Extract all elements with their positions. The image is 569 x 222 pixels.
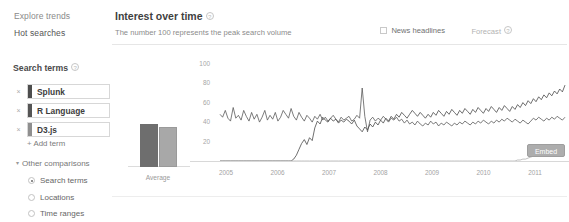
search-terms-heading: Search terms? [13, 63, 79, 73]
radio-option-locations[interactable]: Locations [28, 193, 74, 202]
x-axis-tick: 2008 [369, 169, 393, 176]
radio-label: Locations [40, 193, 74, 202]
plus-icon: + [27, 139, 32, 148]
page-subtitle: The number 100 represents the peak searc… [115, 28, 291, 37]
news-headlines-label: News headlines [391, 26, 445, 35]
search-term-row: × Splunk [14, 84, 110, 100]
y-axis-tick: 60 [194, 99, 210, 106]
search-term-input[interactable]: R Language [27, 103, 110, 118]
x-axis-tick: 2009 [420, 169, 444, 176]
trend-line [220, 88, 565, 132]
trend-plot: 10080604020 2005200620072008200920102011 [190, 48, 569, 183]
footer-divider [112, 196, 567, 197]
x-axis-tick: 2006 [266, 169, 290, 176]
help-icon[interactable]: ? [504, 26, 512, 34]
search-term-row: × D3.js [14, 122, 110, 138]
x-axis-tick: 2011 [523, 169, 547, 176]
series-color-swatch [28, 85, 32, 98]
remove-term-icon[interactable]: × [14, 106, 23, 115]
search-terms-label: Search terms [13, 63, 68, 73]
sidebar: Explore trends Hot searches Search terms… [0, 0, 112, 222]
x-axis-tick: 2005 [214, 169, 238, 176]
main-panel: Interest over time? The number 100 repre… [112, 0, 569, 222]
average-label: Average [126, 174, 190, 181]
radio-icon [28, 210, 35, 217]
trend-lines-svg [190, 48, 569, 183]
radio-icon [28, 177, 35, 184]
search-term-input[interactable]: Splunk [27, 84, 110, 99]
series-color-swatch [28, 104, 32, 117]
y-axis-tick: 100 [194, 60, 210, 67]
x-axis-tick: 2007 [317, 169, 341, 176]
embed-button[interactable]: Embed [527, 144, 565, 157]
page-title: Interest over time? [115, 10, 214, 22]
other-comparisons-toggle[interactable]: ▾Other comparisons [16, 159, 90, 168]
sidebar-item-hot-searches[interactable]: Hot searches [14, 28, 65, 38]
page-title-text: Interest over time [115, 10, 203, 22]
add-term-button[interactable]: +Add term [27, 139, 65, 148]
checkbox-icon [380, 27, 387, 34]
radio-label: Search terms [40, 176, 88, 185]
trend-line [220, 152, 565, 161]
x-axis-line [190, 161, 569, 162]
remove-term-icon[interactable]: × [14, 87, 23, 96]
add-term-label: Add term [34, 139, 66, 148]
trend-line [220, 85, 565, 161]
google-trends-page: Explore trends Hot searches Search terms… [0, 0, 569, 222]
sidebar-item-explore-trends[interactable]: Explore trends [14, 11, 70, 21]
radio-icon [28, 194, 35, 201]
y-axis-tick: 20 [194, 138, 210, 145]
help-icon[interactable]: ? [71, 63, 79, 71]
search-term-row: × R Language [14, 103, 110, 119]
remove-term-icon[interactable]: × [14, 125, 23, 134]
radio-option-search-terms[interactable]: Search terms [28, 176, 88, 185]
forecast-label: Forecast [471, 27, 501, 36]
average-bars-chart: Average [126, 48, 190, 183]
search-term-label: D3.js [37, 125, 57, 135]
search-term-label: R Language [37, 106, 85, 116]
y-axis-tick: 40 [194, 118, 210, 125]
series-color-swatch [28, 123, 32, 136]
average-bar [140, 124, 158, 167]
radio-label: Time ranges [40, 209, 84, 218]
news-headlines-checkbox[interactable]: News headlines [380, 26, 445, 35]
chart: Average 10080604020 20052006200720082009… [112, 48, 569, 183]
search-term-input[interactable]: D3.js [27, 122, 110, 137]
chevron-down-icon: ▾ [16, 159, 19, 166]
y-axis-tick: 80 [194, 79, 210, 86]
forecast-toggle[interactable]: Forecast? [471, 26, 512, 36]
search-term-label: Splunk [37, 87, 65, 97]
x-axis-tick: 2010 [472, 169, 496, 176]
other-comparisons-label: Other comparisons [22, 159, 90, 168]
help-icon[interactable]: ? [206, 12, 214, 20]
radio-option-time-ranges[interactable]: Time ranges [28, 209, 84, 218]
average-bar [159, 127, 177, 167]
header-divider [112, 44, 567, 45]
